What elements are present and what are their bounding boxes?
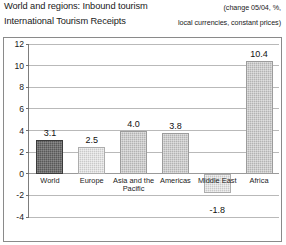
bar-asia-and-the-pacific xyxy=(120,131,147,174)
bar-europe xyxy=(78,147,105,174)
y-axis-tick xyxy=(26,195,29,196)
x-axis-category-label: Africa xyxy=(235,177,283,185)
bar-value-label: 3.1 xyxy=(27,128,73,138)
chart-plot-frame: -4-20246810123.1World2.5Europe4.0Asia an… xyxy=(3,37,282,242)
bar-africa xyxy=(246,61,273,173)
y-axis-label: 8 xyxy=(19,83,24,92)
bar-value-label: 4.0 xyxy=(111,119,157,129)
bar-value-label: 10.4 xyxy=(236,49,282,59)
bar-americas xyxy=(162,133,189,174)
bar-value-label: 2.5 xyxy=(69,135,115,145)
gridline xyxy=(29,44,279,45)
y-axis-label: -4 xyxy=(16,213,24,222)
gridline xyxy=(29,173,279,174)
y-axis-label: -2 xyxy=(16,191,24,200)
gridline xyxy=(29,65,279,66)
x-axis-category-label: World xyxy=(26,177,74,185)
x-axis-category-label: Europe xyxy=(68,177,116,185)
x-axis-category-label: Middle East xyxy=(193,177,241,185)
gridline xyxy=(29,87,279,88)
gridline xyxy=(29,152,279,153)
y-axis-tick xyxy=(26,108,29,109)
plot-area: -4-20246810123.1World2.5Europe4.0Asia an… xyxy=(28,44,279,217)
chart-title: World and regions: Inbound tourism xyxy=(4,1,148,12)
y-axis-tick xyxy=(26,173,29,174)
y-axis-tick xyxy=(26,217,29,218)
y-axis-label: 4 xyxy=(19,126,24,135)
bar-world xyxy=(36,140,63,174)
chart-figure: World and regions: Inbound tourism Inter… xyxy=(0,0,286,245)
bar-value-label: 3.8 xyxy=(152,121,198,131)
units-note-line-2: local currencies, constant prices) xyxy=(178,18,281,27)
y-axis-tick xyxy=(26,87,29,88)
chart-subtitle: International Tourism Receipts xyxy=(4,16,126,27)
gridline xyxy=(29,195,279,196)
x-axis-category-label: Asia and the Pacific xyxy=(110,177,158,194)
gridline xyxy=(29,217,279,218)
y-axis-label: 2 xyxy=(19,148,24,157)
y-axis-label: 0 xyxy=(19,169,24,178)
y-axis-tick xyxy=(26,152,29,153)
gridline xyxy=(29,108,279,109)
y-axis-tick xyxy=(26,44,29,45)
units-note-line-1: (change 05/04, %, xyxy=(224,3,282,12)
y-axis-tick xyxy=(26,65,29,66)
y-axis-label: 12 xyxy=(14,40,24,49)
y-axis-label: 6 xyxy=(19,104,24,113)
x-axis-category-label: Americas xyxy=(152,177,200,185)
bar-value-label: -1.8 xyxy=(194,205,240,215)
y-axis-label: 10 xyxy=(14,61,24,70)
